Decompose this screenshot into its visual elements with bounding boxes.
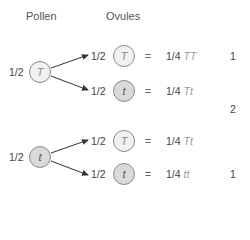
ratio-tt: 1 (230, 168, 236, 180)
ratio-Tt: 2 (230, 103, 236, 115)
equals-sign: = (145, 168, 151, 180)
result-tt: 1/4 tt (166, 168, 189, 180)
ovule-allele-t-circle: t (113, 163, 135, 185)
ratio-TT: 1 (230, 50, 236, 62)
pollen-allele-t-circle: t (29, 146, 51, 168)
equals-sign: = (145, 85, 151, 97)
ovule-prob-4: 1/2 (91, 168, 106, 180)
ovule-allele-T-circle: T (113, 130, 135, 152)
result-Tt: 1/4 Tt (166, 135, 193, 147)
result-TT: 1/4 TT (166, 50, 196, 62)
ovule-prob-3: 1/2 (91, 135, 106, 147)
ovule-prob-1: 1/2 (91, 50, 106, 62)
ovule-prob-2: 1/2 (91, 85, 106, 97)
equals-sign: = (145, 50, 151, 62)
ovule-allele-t-circle: t (113, 80, 135, 102)
result-Tt: 1/4 Tt (166, 85, 193, 97)
equals-sign: = (145, 135, 151, 147)
ovule-allele-T-circle: T (113, 45, 135, 67)
pollen-allele-T-circle: T (29, 61, 51, 83)
pollen-prob-T: 1/2 (9, 66, 24, 78)
pollen-prob-t: 1/2 (9, 151, 24, 163)
